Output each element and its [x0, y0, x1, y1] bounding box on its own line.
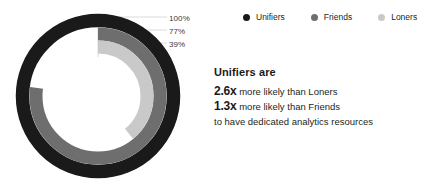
legend-item-unifiers[interactable]: Unifiers	[243, 12, 285, 22]
callout-block: Unifiers are 2.6x more likely than Loner…	[214, 66, 430, 129]
chart-legend: Unifiers Friends Loners	[243, 12, 435, 22]
ring-label-inner: 39%	[169, 40, 185, 49]
legend-label-loners: Loners	[391, 12, 417, 22]
callout-line-friends: 1.3x more likely than Friends	[214, 99, 430, 114]
callout-heading: Unifiers are	[214, 66, 430, 78]
callout-line-loners: 2.6x more likely than Loners	[214, 84, 430, 99]
callout-text-friends: more likely than Friends	[237, 101, 340, 112]
donut-chart: 100% 77% 39%	[0, 0, 200, 188]
legend-label-unifiers: Unifiers	[256, 12, 285, 22]
legend-item-loners[interactable]: Loners	[378, 12, 417, 22]
legend-label-friends: Friends	[324, 12, 352, 22]
legend-item-friends[interactable]: Friends	[311, 12, 352, 22]
callout-multiplier-friends: 1.3x	[214, 99, 237, 113]
callout-line-tail: to have dedicated analytics resources	[214, 115, 430, 129]
callout-text-loners: more likely than Loners	[237, 86, 338, 97]
ring-label-middle: 77%	[169, 27, 185, 36]
legend-dot-icon-unifiers	[243, 14, 250, 21]
legend-dot-icon-friends	[311, 14, 318, 21]
callout-multiplier-loners: 2.6x	[214, 84, 237, 98]
ring-label-outer: 100%	[169, 14, 190, 23]
legend-dot-icon-loners	[378, 14, 385, 21]
ring-arc-loners	[49, 47, 147, 145]
